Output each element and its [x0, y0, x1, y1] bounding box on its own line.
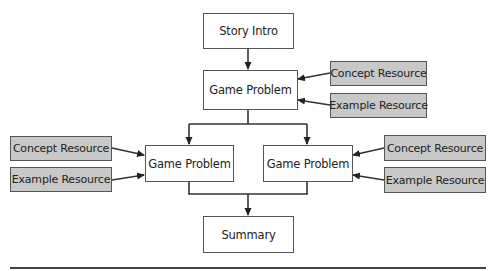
- left-example-resource: Example Resource: [10, 167, 112, 192]
- summary-label: Summary: [221, 228, 275, 242]
- left-concept-resource-label: Concept Resource: [13, 142, 109, 155]
- game-problem-top-label: Game Problem: [209, 83, 292, 97]
- top-concept-resource: Concept Resource: [330, 61, 427, 86]
- game-problem-right-node: Game Problem: [263, 145, 353, 182]
- game-problem-left-label: Game Problem: [148, 157, 231, 171]
- game-problem-left-node: Game Problem: [145, 145, 234, 182]
- right-example-resource: Example Resource: [384, 167, 486, 193]
- top-example-resource: Example Resource: [330, 93, 427, 118]
- top-example-resource-label: Example Resource: [329, 99, 427, 112]
- left-example-resource-label: Example Resource: [12, 173, 110, 186]
- summary-node: Summary: [203, 216, 294, 253]
- right-example-resource-label: Example Resource: [386, 174, 484, 187]
- game-problem-top-node: Game Problem: [203, 70, 298, 110]
- bottom-divider: [10, 267, 486, 269]
- story-intro-node: Story Intro: [203, 13, 294, 49]
- right-concept-resource-label: Concept Resource: [387, 142, 483, 155]
- top-concept-resource-label: Concept Resource: [330, 67, 426, 80]
- game-problem-right-label: Game Problem: [267, 157, 350, 171]
- left-concept-resource: Concept Resource: [10, 136, 112, 161]
- right-concept-resource: Concept Resource: [384, 135, 486, 161]
- story-intro-label: Story Intro: [219, 24, 278, 38]
